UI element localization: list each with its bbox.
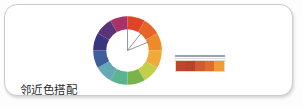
palette-group	[175, 55, 225, 73]
color-wheel	[91, 14, 164, 87]
palette-swatch-1	[176, 61, 186, 71]
palette-rule-top	[175, 55, 225, 57]
palette-rule-under	[175, 58, 225, 59]
palette-swatch-4	[205, 61, 215, 71]
analogous-swatch-bar	[175, 60, 225, 72]
palette-swatch-5	[214, 61, 224, 71]
palette-swatch-2	[186, 61, 196, 71]
figure-root: 邻近色搭配	[0, 0, 303, 109]
palette-swatch-3	[195, 61, 205, 71]
color-wheel-svg	[91, 14, 164, 87]
diagram-card: 邻近色搭配	[4, 4, 293, 96]
caption-label: 邻近色搭配	[20, 83, 77, 97]
